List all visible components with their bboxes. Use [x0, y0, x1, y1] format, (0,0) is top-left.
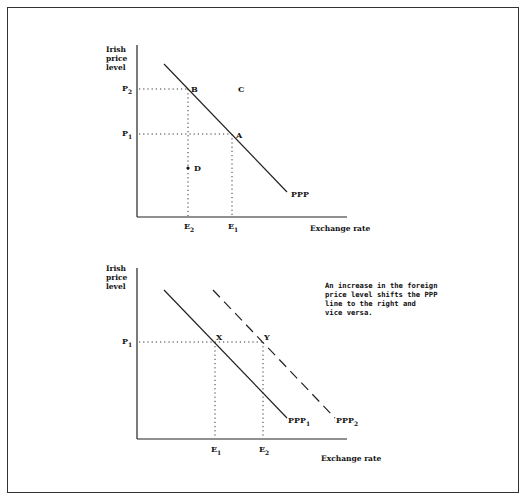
panel-ppp-single: Irish price level PPP P2 P1 E2 E1 Exchan… [106, 45, 370, 233]
point-a-label: A [235, 130, 243, 140]
panel-ppp-shift: Irish price level PPP1 PPP2 P1 E1 E2 Exc… [106, 264, 438, 463]
point-d-label: D [194, 163, 201, 173]
point-x-label: X [216, 332, 223, 342]
e1-label: E1 [211, 444, 221, 456]
p1-label: P1 [122, 336, 132, 348]
ppp2-line [213, 290, 335, 418]
ppp1-line [164, 290, 287, 418]
y-axis-label-line1: Irish [106, 45, 127, 54]
note-line2: price level shifts the PPP [325, 290, 438, 299]
note-line4: vice versa. [325, 308, 373, 317]
y-axis-label-line3: level [106, 63, 126, 72]
y-axis-label-line2: price [106, 273, 128, 282]
y-axis-label-line2: price [106, 54, 128, 63]
point-d-marker [186, 166, 189, 169]
x-axis-label: Exchange rate [321, 454, 381, 463]
y-axis-label-line3: level [106, 282, 126, 291]
point-c-label: C [238, 84, 244, 94]
p2-label: P2 [122, 83, 132, 95]
x-axis-label: Exchange rate [310, 224, 370, 233]
y-axis-label-line1: Irish [106, 264, 127, 273]
ppp1-label: PPP1 [288, 415, 310, 427]
e2-label: E2 [184, 221, 194, 233]
point-b-label: B [191, 84, 198, 94]
ppp-line [164, 64, 287, 192]
e1-label: E1 [228, 221, 238, 233]
ppp-line-label: PPP [291, 189, 309, 199]
ppp-diagram: Irish price level PPP P2 P1 E2 E1 Exchan… [0, 0, 525, 500]
note-line3: line to the right and [325, 299, 416, 308]
e2-label: E2 [259, 444, 269, 456]
p1-label: P1 [122, 128, 132, 140]
note-line1: An increase in the foreign [325, 281, 438, 290]
ppp2-label: PPP2 [336, 415, 358, 427]
point-y-label: Y [263, 332, 270, 342]
